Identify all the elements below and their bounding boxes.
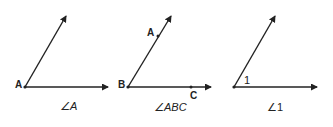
ray-upper bbox=[25, 16, 66, 87]
angle-1: 1 ∠1 bbox=[232, 16, 317, 113]
angle-naming-diagram: A ∠A A B C ∠ABC 1 ∠1 bbox=[0, 0, 333, 127]
angle-a: A ∠A bbox=[15, 16, 108, 112]
point-a bbox=[157, 35, 160, 38]
angle-caption: ∠1 bbox=[267, 101, 283, 113]
point-c bbox=[190, 86, 193, 89]
angle-caption: ∠ABC bbox=[154, 101, 187, 113]
vertex-point bbox=[126, 85, 129, 88]
point-c-label: C bbox=[190, 90, 197, 101]
vertex-point bbox=[23, 85, 26, 88]
angle-caption: ∠A bbox=[60, 100, 77, 112]
vertex-label: A bbox=[15, 79, 22, 90]
vertex-label: B bbox=[118, 79, 125, 90]
point-a-label: A bbox=[147, 27, 154, 38]
vertex-point bbox=[232, 85, 235, 88]
ray-upper bbox=[234, 16, 275, 87]
angle-number-label: 1 bbox=[244, 74, 250, 86]
angle-abc: A B C ∠ABC bbox=[118, 16, 211, 113]
